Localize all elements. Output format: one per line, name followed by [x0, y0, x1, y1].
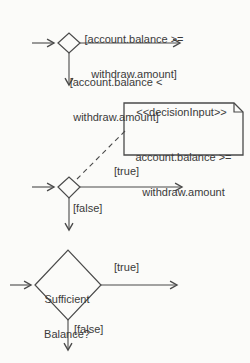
guard-label-middle-true: [true] — [114, 166, 139, 178]
decision-question-label: Sufficient Balance? — [32, 271, 102, 363]
guard-label-middle-false: [false] — [73, 203, 102, 215]
note-stereotype: <<decisionInput>> — [124, 107, 239, 119]
note-body-text: withdraw.amount — [124, 187, 243, 199]
note-body: account.balance >= withdraw.amount — [124, 129, 243, 221]
guard-label-bottom-false: [false] — [74, 324, 103, 336]
decision-diamond-middle — [58, 177, 80, 198]
decision-diamond-top — [58, 33, 80, 53]
question-text: Sufficient — [32, 294, 102, 306]
uml-decision-diagram: [account.balance >= withdraw.amount] [ac… — [0, 0, 250, 363]
note-body-text: account.balance >= — [124, 152, 243, 164]
guard-label-bottom-true: [true] — [114, 262, 139, 274]
guard-text: [account.balance >= — [79, 34, 189, 46]
guard-text: [account.balance < — [61, 77, 171, 89]
